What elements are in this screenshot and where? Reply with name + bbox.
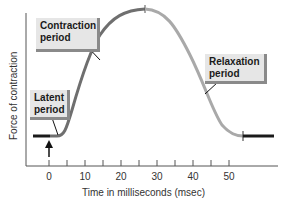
x-tick-40: 40: [187, 171, 198, 182]
relaxation-label-line2: period: [209, 68, 260, 80]
latent-label-line2: period: [34, 104, 63, 116]
contraction-period-label: Contraction period: [36, 18, 100, 52]
contraction-label-line2: period: [40, 32, 93, 44]
x-axis-ticks: [49, 160, 229, 166]
relaxation-period-label: Relaxation period: [205, 54, 267, 84]
x-tick-20: 20: [115, 171, 126, 182]
x-tick-50: 50: [223, 171, 234, 182]
x-tick-0: 0: [46, 171, 52, 182]
stimulus-arrow-icon: [45, 140, 53, 148]
relaxation-label-line1: Relaxation: [209, 56, 260, 68]
muscle-twitch-diagram: Contraction period Relaxation period Lat…: [0, 0, 283, 207]
x-tick-10: 10: [79, 171, 90, 182]
x-axis-label: Time in milliseconds (msec): [82, 187, 205, 198]
x-tick-30: 30: [151, 171, 162, 182]
contraction-label-line1: Contraction: [40, 20, 93, 32]
latent-period-label: Latent period: [30, 90, 70, 120]
latent-label-line1: Latent: [34, 92, 63, 104]
y-axis-label: Force of contraction: [8, 52, 19, 140]
